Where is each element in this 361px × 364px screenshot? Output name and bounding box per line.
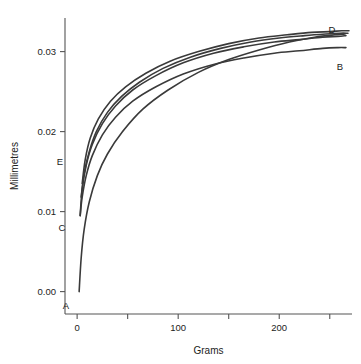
x-axis-title: Grams bbox=[194, 345, 224, 356]
y-axis-title: Millimetres bbox=[9, 142, 20, 190]
y-tick-label: 0.03 bbox=[38, 46, 57, 57]
chart-container: 0.000.010.020.030100200 ABCDE GramsMilli… bbox=[0, 0, 361, 364]
curve-label-c: C bbox=[59, 222, 66, 233]
curve-label-e: E bbox=[57, 156, 63, 167]
y-tick-label: 0.02 bbox=[38, 126, 57, 137]
x-tick-label: 0 bbox=[74, 322, 79, 333]
curve-label-a: A bbox=[63, 300, 70, 311]
y-tick-label: 0.01 bbox=[38, 206, 57, 217]
y-tick-label: 0.00 bbox=[38, 286, 57, 297]
x-tick-label: 200 bbox=[271, 322, 287, 333]
line-chart-svg: 0.000.010.020.030100200 ABCDE GramsMilli… bbox=[0, 0, 361, 364]
curve-label-d: D bbox=[329, 24, 336, 35]
x-tick-label: 100 bbox=[170, 322, 186, 333]
curve-label-b: B bbox=[337, 61, 343, 72]
